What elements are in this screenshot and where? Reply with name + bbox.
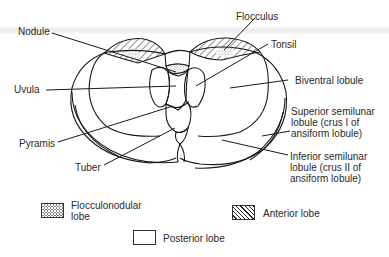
legend-swatch-anterior	[232, 205, 255, 220]
legend-label-anterior: Anterior lobe	[263, 208, 320, 219]
label-inferior-semilunar-lobule: Inferior semilunar lobule (crus II of an…	[290, 151, 386, 184]
label-nodule: Nodule	[18, 26, 50, 37]
label-uvula: Uvula	[14, 84, 40, 95]
label-tuber: Tuber	[75, 162, 101, 173]
legend-swatch-flocculonodular	[41, 203, 64, 218]
label-superior-semilunar-lobule: Superior semilunar lobule (crus I of ans…	[291, 106, 387, 139]
legend-label-flocculonodular: Flocculonodular lobe	[71, 200, 135, 222]
tuber	[176, 128, 189, 144]
legend-label-posterior: Posterior lobe	[163, 233, 225, 244]
leader-lines	[46, 18, 290, 165]
label-pyramis: Pyramis	[19, 138, 55, 149]
legend-text-flocculonodular: Flocculonodular lobe	[71, 200, 135, 222]
label-tonsil: Tonsil	[271, 39, 297, 50]
label-flocculus: Flocculus	[236, 11, 278, 22]
label-biventral-lobule: Biventral lobule	[295, 75, 363, 86]
legend-swatch-posterior	[133, 230, 156, 245]
